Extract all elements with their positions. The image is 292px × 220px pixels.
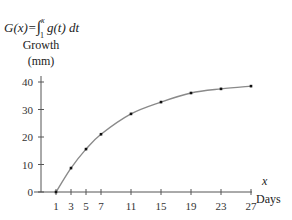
- y-tick-label: 30: [22, 104, 34, 116]
- y-tick-label: 20: [22, 131, 34, 143]
- data-point: [100, 133, 103, 136]
- data-point: [190, 92, 193, 95]
- x-tick-label: 3: [68, 200, 74, 212]
- data-point: [220, 88, 223, 91]
- x-tick-label: 5: [83, 200, 89, 212]
- y-tick-label: 10: [22, 159, 34, 171]
- data-point: [70, 167, 73, 170]
- y-tick-label: 40: [22, 76, 34, 88]
- data-point: [160, 101, 163, 104]
- x-tick-label: 27: [246, 200, 258, 212]
- chart-plot-area: 01020304013571115192327: [0, 0, 292, 220]
- data-point: [85, 148, 88, 151]
- x-tick-label: 15: [156, 200, 168, 212]
- x-tick-label: 19: [186, 200, 198, 212]
- data-point: [130, 113, 133, 116]
- x-tick-label: 7: [98, 200, 104, 212]
- x-tick-label: 11: [126, 200, 137, 212]
- x-tick-label: 23: [216, 200, 228, 212]
- data-point: [250, 85, 253, 88]
- data-point: [55, 191, 58, 194]
- y-tick-label: 0: [28, 186, 34, 198]
- x-tick-label: 1: [53, 200, 59, 212]
- growth-curve: [56, 86, 251, 192]
